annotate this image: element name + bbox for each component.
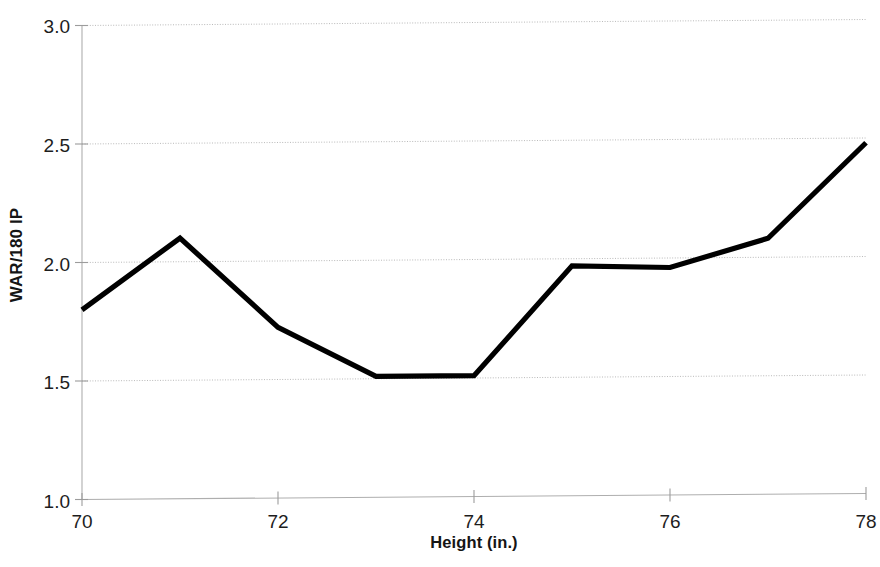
gridlines-group	[82, 20, 866, 382]
plot-area	[0, 0, 880, 567]
gridline-3-0	[82, 20, 866, 26]
line-chart: WAR/180 IP 3.0 2.5 2.0 1.5 1.0 70 72 74 …	[0, 0, 880, 567]
data-series-line	[82, 143, 866, 377]
axis-lines-group	[82, 26, 866, 500]
gridline-2-5	[82, 138, 866, 144]
axis-ticks-group	[75, 26, 866, 507]
